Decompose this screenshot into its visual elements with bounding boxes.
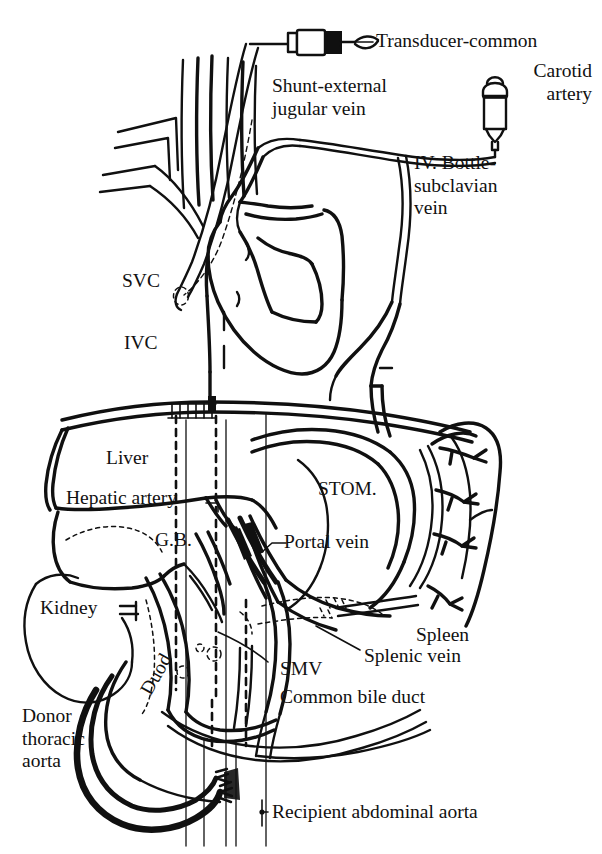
subclavian-line — [258, 139, 411, 304]
label-carotid-artery: Carotid artery — [452, 60, 592, 105]
kidney-outline — [24, 575, 138, 703]
label-spleen: Spleen — [416, 624, 469, 647]
label-liver: Liver — [106, 447, 148, 470]
label-splenic-vein: Splenic vein — [364, 645, 461, 668]
label-recipient-abdominal-aorta: Recipient abdominal aorta — [272, 801, 478, 824]
label-svc: SVC — [122, 270, 160, 293]
transplant-diagram: Transducer-common Carotid artery Shunt-e… — [0, 0, 602, 854]
spleen-outline — [428, 423, 500, 626]
stomach-outline — [252, 429, 442, 610]
label-smv: SMV — [280, 658, 322, 681]
label-transducer: Transducer-common — [376, 30, 537, 53]
label-donor-thoracic-aorta: Donor thoracic aorta — [22, 705, 85, 773]
label-iv-bottle-subclavian-vein: IV. Bottle- subclavian vein — [414, 152, 497, 220]
label-hepatic-artery: Hepatic artery — [66, 487, 177, 510]
diagram-artwork — [0, 0, 602, 854]
label-ivc: IVC — [124, 332, 158, 355]
label-shunt-external-jugular-vein: Shunt-external jugular vein — [272, 75, 387, 120]
label-stomach: STOM. — [318, 478, 377, 501]
liver-outline — [46, 428, 276, 528]
pancreas-outline — [240, 597, 382, 634]
label-gall-bladder: G.B. — [155, 529, 192, 552]
lower-curved-vessels — [140, 710, 430, 802]
label-kidney: Kidney — [40, 597, 97, 620]
neck-vessel-group — [100, 56, 257, 238]
label-portal-vein: Portal vein — [284, 531, 369, 554]
label-common-bile-duct: Common bile duct — [280, 686, 425, 709]
